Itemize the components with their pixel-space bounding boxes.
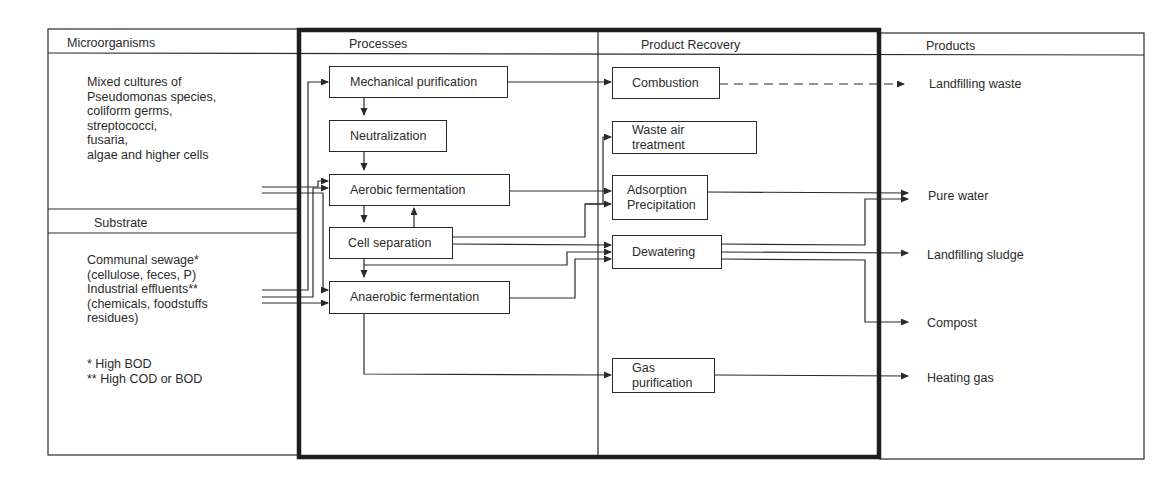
- cellsep-to-dewatering-arrow: [452, 244, 611, 245]
- process-aerobic-fermentation: Aerobic fermentation: [329, 174, 510, 206]
- product-pure-water: Pure water: [928, 189, 988, 204]
- substrate-item: Communal sewage*: [87, 253, 208, 268]
- microorganism-item: Pseudomonas species,: [87, 90, 216, 105]
- substrate-list: Communal sewage* (cellulose, feces, P) I…: [87, 253, 208, 326]
- microorganism-item: fusaria,: [87, 133, 216, 148]
- microorganism-item: coliform germs,: [87, 104, 216, 119]
- product-compost: Compost: [927, 316, 977, 331]
- substrate-to-aerobic-arrow: [262, 188, 328, 297]
- recovery-label: Gas purification: [632, 361, 692, 390]
- process-mechanical-purification: Mechanical purification: [329, 66, 508, 98]
- substrate-item: residues): [87, 311, 208, 326]
- microorganisms-header: Microorganisms: [67, 36, 155, 51]
- process-anaerobic-fermentation: Anaerobic fermentation: [329, 281, 510, 314]
- microorganism-item: algae and higher cells: [87, 148, 216, 163]
- process-label: Mechanical purification: [350, 75, 477, 90]
- recovery-label: Waste air treatment: [632, 123, 685, 152]
- micro-to-anaerobic-arrow: [262, 193, 328, 290]
- recovery-label: Dewatering: [632, 245, 695, 260]
- microorganism-item: Mixed cultures of: [87, 75, 216, 90]
- processes-header: Processes: [349, 37, 407, 52]
- recovery-gas-purification: Gas purification: [612, 358, 715, 393]
- substrate-item: Industrial effluents**: [87, 282, 208, 297]
- product-heating-gas: Heating gas: [927, 371, 994, 386]
- process-label: Anaerobic fermentation: [350, 290, 479, 305]
- process-label: Aerobic fermentation: [350, 183, 465, 198]
- recovery-adsorption-precipitation: Adsorption Precipitation: [612, 175, 708, 220]
- process-cell-separation: Cell separation: [329, 227, 453, 259]
- process-label: Cell separation: [348, 236, 431, 251]
- product-landfilling-sludge: Landfilling sludge: [927, 248, 1024, 263]
- microorganism-item: streptococci,: [87, 119, 216, 134]
- substrate-header: Substrate: [94, 216, 148, 231]
- recovery-label: Adsorption Precipitation: [627, 183, 696, 212]
- anaerobic-to-gas-arrow: [364, 313, 611, 375]
- micro-to-aerobic-arrow: [262, 181, 328, 187]
- recovery-dewatering: Dewatering: [612, 235, 722, 269]
- product-recovery-header: Product Recovery: [641, 38, 740, 53]
- flow-diagram-lines: [0, 0, 1160, 482]
- footnotes: * High BOD ** High COD or BOD: [87, 357, 202, 386]
- process-neutralization: Neutralization: [329, 120, 447, 152]
- header-divider: [48, 53, 1144, 55]
- recovery-label: Combustion: [632, 76, 699, 91]
- footnote-cod-bod: ** High COD or BOD: [87, 372, 202, 387]
- process-label: Neutralization: [350, 129, 426, 144]
- recovery-waste-air-treatment: Waste air treatment: [612, 121, 757, 154]
- footnote-bod: * High BOD: [87, 357, 202, 372]
- recovery-combustion: Combustion: [612, 67, 720, 99]
- product-landfilling-waste: Landfilling waste: [929, 77, 1021, 92]
- substrate-item: (cellulose, feces, P): [87, 268, 208, 283]
- microorganisms-list: Mixed cultures of Pseudomonas species, c…: [87, 75, 216, 162]
- products-header: Products: [926, 39, 975, 54]
- products-column-frame: [880, 33, 1144, 459]
- substrate-item: (chemicals, foodstuffs: [87, 297, 208, 312]
